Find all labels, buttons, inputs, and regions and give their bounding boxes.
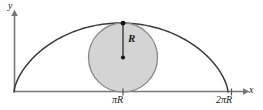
y-axis <box>11 10 18 93</box>
arch-peak-point <box>121 21 126 26</box>
x-axis-label: x <box>249 85 253 95</box>
y-axis-label: y <box>8 1 12 11</box>
cycloid-figure: y x R πR 2πR <box>0 0 263 110</box>
radius-label: R <box>128 33 135 44</box>
circle-center-point <box>121 55 125 59</box>
tick-label-two-pi-r: 2πR <box>216 95 232 105</box>
tick-label-pi-r: πR <box>112 95 123 105</box>
